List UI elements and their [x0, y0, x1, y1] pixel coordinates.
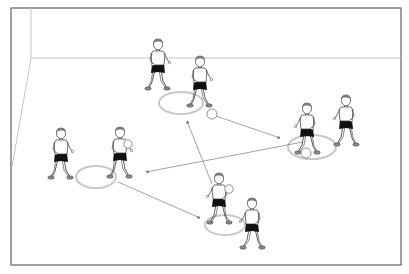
ball-icon [207, 109, 217, 119]
ball-icon [225, 185, 233, 193]
ball-icon [124, 140, 132, 148]
gym-drill-illustration [0, 0, 409, 274]
ball-icon [301, 148, 311, 158]
